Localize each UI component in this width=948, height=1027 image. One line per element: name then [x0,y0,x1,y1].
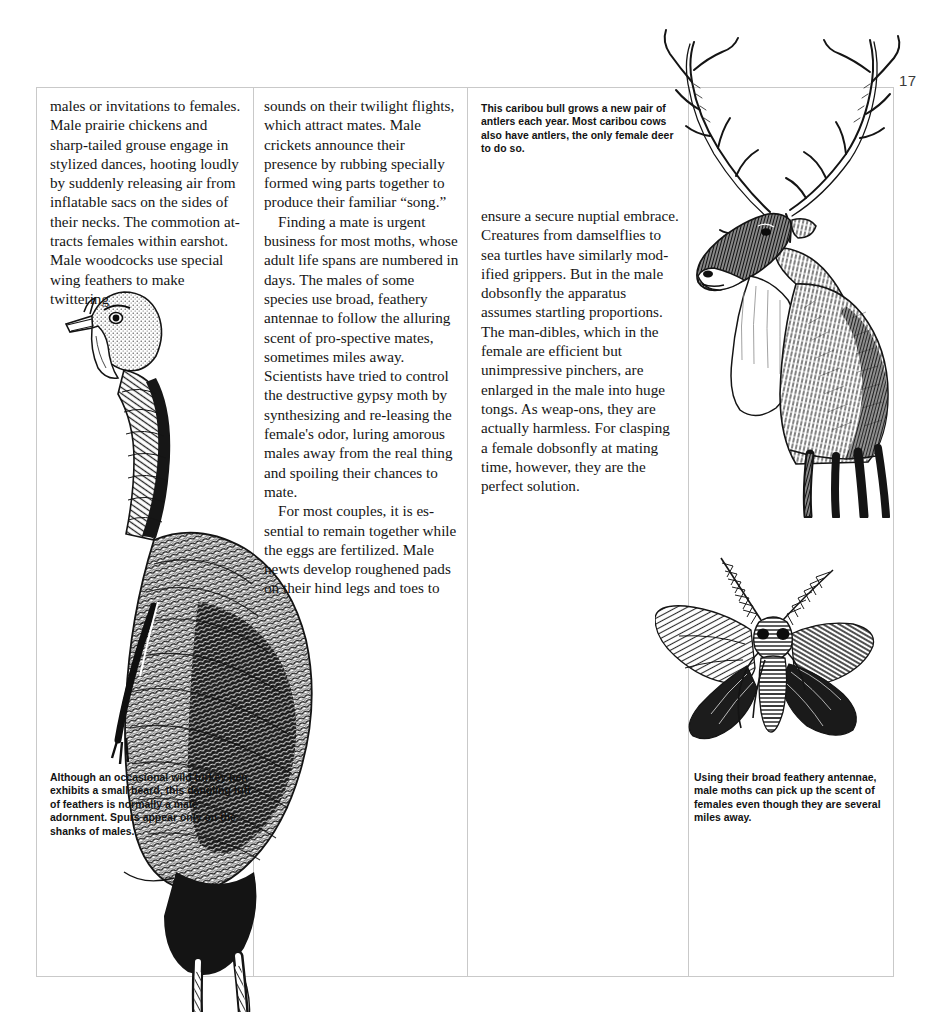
turkey-neck-group [118,370,170,540]
paragraph: males or invitations to females. Male pr… [50,96,243,308]
turkey-body-group [125,533,312,975]
caption-turkey: Although an occasional wild turkey hen e… [50,771,256,838]
caption-caribou: This caribou bull grows a new pair of an… [481,102,681,156]
moth-body [754,617,793,732]
moth-left-wing [655,606,757,739]
paragraph: sounds on their twilight flights, which … [264,96,460,212]
moth-right-wing [781,623,874,735]
body-column-2: sounds on their twilight flights, which … [264,96,460,598]
paragraph: ensure a secure nuptial embrace. Creatur… [481,206,679,495]
caribou-illustration [640,18,930,518]
caribou-body [731,248,888,464]
column-divider-2 [467,88,468,976]
moth-illustration [655,548,895,753]
caption-moth: Using their broad feathery antennae, mal… [694,771,902,825]
paragraph: For most couples, it is es-sential to re… [264,501,460,597]
body-column-3: ensure a secure nuptial embrace. Creatur… [481,206,679,495]
moth-antennae [721,558,833,625]
body-column-1: males or invitations to females. Male pr… [50,96,243,308]
paragraph: Finding a mate is urgent business for mo… [264,212,460,501]
